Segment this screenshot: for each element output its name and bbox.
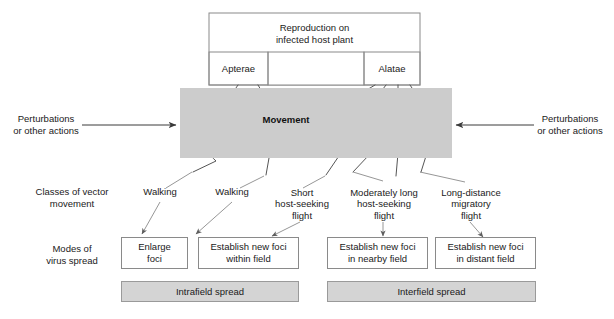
spread-mode-establish-new-foci-in-nearby-field: Establish new foci in nearby field: [327, 237, 428, 269]
movement-class-moderately-long-host-seeking-flight: Moderately long host-seeking flight: [341, 186, 427, 222]
spread-mode-enlarge-foci: Enlarge foci: [121, 237, 188, 269]
aphid-virus-spread-diagram: Reproduction on infected host plant Apte…: [0, 0, 614, 319]
spread-scale-intrafield: Intrafield spread: [121, 281, 299, 302]
movement-class-walking-1: Walking: [133, 186, 187, 198]
movement-band-label: Movement: [246, 114, 326, 125]
reproduction-box-label: Reproduction on infected host plant: [212, 18, 417, 50]
movement-class-walking-2: Walking: [205, 186, 259, 198]
alatae-box-label: Alatae: [364, 52, 420, 85]
perturbations-right-label: Perturbations or other actions: [534, 112, 606, 138]
spread-mode-establish-new-foci-in-distant-field: Establish new foci in distant field: [435, 237, 536, 269]
spread-mode-establish-new-foci-within-field: Establish new foci within field: [198, 237, 299, 269]
apterae-box-label: Apterae: [209, 52, 268, 85]
movement-class-short-host-seeking-flight: Short host-seeking flight: [263, 186, 341, 222]
row-label-modes-of-virus-spread: Modes of virus spread: [22, 242, 122, 268]
spread-scale-interfield: Interfield spread: [327, 281, 536, 302]
movement-class-long-distance-migratory-flight: Long-distance migratory flight: [432, 186, 510, 222]
row-label-classes-of-vector-movement: Classes of vector movement: [22, 185, 122, 211]
perturbations-left-label: Perturbations or other actions: [10, 112, 82, 138]
